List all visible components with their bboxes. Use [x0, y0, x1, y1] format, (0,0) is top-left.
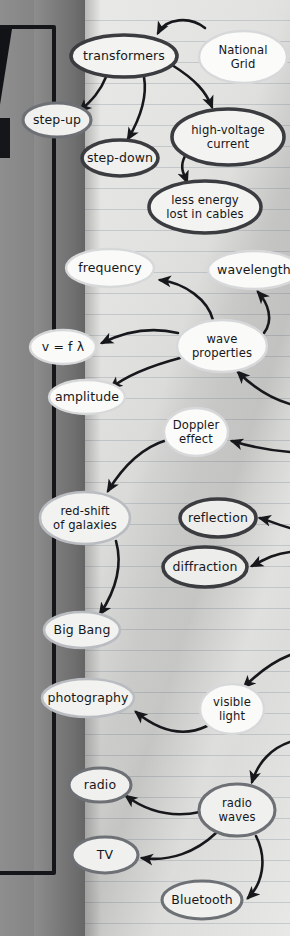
- edge-radiowaves-to-tv: [142, 833, 216, 859]
- node-high-voltage[interactable]: high-voltagecurrent: [172, 109, 284, 165]
- node-label-less-energy: less energylost in cables: [166, 193, 243, 221]
- node-label-step-down: step-down: [87, 150, 153, 165]
- node-tv[interactable]: TV: [72, 837, 138, 873]
- node-label-bluetooth: Bluetooth: [171, 892, 233, 907]
- edge-visiblelight-to-photography: [136, 712, 207, 732]
- edge-rightside-to-reflection: [260, 518, 290, 528]
- node-label-amplitude: amplitude: [55, 389, 119, 404]
- edge-radiowaves-to-bluetooth: [248, 836, 262, 898]
- node-label-transformers: transformers: [83, 48, 165, 63]
- node-bluetooth[interactable]: Bluetooth: [162, 881, 242, 919]
- edge-radiowaves-to-radio: [126, 796, 200, 814]
- node-wavelength[interactable]: wavelength: [208, 251, 290, 289]
- edge-nationalgrid-to-transformers: [158, 20, 205, 33]
- edge-waveprops-to-wavelength: [258, 292, 269, 333]
- edge-doppler-to-redshift: [108, 440, 167, 491]
- node-label-doppler-effect: Dopplereffect: [173, 418, 220, 446]
- node-big-bang[interactable]: Big Bang: [44, 612, 120, 648]
- node-label-big-bang: Big Bang: [54, 622, 111, 637]
- node-label-v-f-lambda: v = f λ: [42, 339, 85, 354]
- edge-rightside-to-visiblelight: [244, 655, 290, 687]
- node-label-radio: radio: [84, 777, 116, 792]
- node-reflection[interactable]: reflection: [180, 499, 256, 537]
- edge-rightside-to-diffraction: [252, 552, 290, 566]
- nodes-layer: transformersNationalGridstep-upstep-down…: [23, 31, 290, 919]
- edge-transformers-to-stepup: [80, 77, 106, 111]
- node-label-diffraction: diffraction: [173, 559, 238, 574]
- edge-waveprops-to-amplitude: [111, 358, 180, 388]
- node-label-step-up: step-up: [33, 112, 81, 127]
- edge-transformers-to-stepdown: [128, 77, 145, 139]
- node-doppler-effect[interactable]: Dopplereffect: [164, 408, 228, 456]
- mindmap-screenshot: transformersNationalGridstep-upstep-down…: [0, 0, 290, 936]
- node-transformers[interactable]: transformers: [71, 35, 177, 77]
- node-visible-light[interactable]: visiblelight: [200, 684, 264, 734]
- node-label-photography: photography: [47, 690, 129, 705]
- node-label-reflection: reflection: [188, 510, 248, 525]
- node-v-f-lambda[interactable]: v = f λ: [30, 330, 96, 364]
- node-amplitude[interactable]: amplitude: [49, 380, 125, 414]
- edge-rightside-to-radiowaves: [252, 742, 290, 782]
- node-photography[interactable]: photography: [42, 679, 134, 717]
- node-wave-properties[interactable]: waveproperties: [177, 320, 267, 372]
- node-radio[interactable]: radio: [69, 768, 131, 802]
- node-label-frequency: frequency: [78, 260, 142, 275]
- node-step-down[interactable]: step-down: [82, 140, 158, 176]
- node-step-up[interactable]: step-up: [23, 103, 91, 137]
- node-less-energy[interactable]: less energylost in cables: [149, 181, 261, 233]
- edge-rightside-to-waveprops: [238, 372, 290, 404]
- edge-rightside-to-doppler: [232, 441, 290, 452]
- mind-map-diagram: transformersNationalGridstep-upstep-down…: [0, 0, 290, 936]
- node-label-radio-waves: radiowaves: [218, 796, 255, 824]
- node-label-red-shift: red-shiftof galaxies: [53, 504, 117, 532]
- edge-redshift-to-bigbang: [100, 541, 119, 614]
- edge-highvoltage-to-lessenergy: [182, 156, 187, 182]
- node-label-tv: TV: [96, 847, 114, 862]
- edge-waveprops-to-frequency: [160, 280, 213, 320]
- node-radio-waves[interactable]: radiowaves: [199, 784, 275, 836]
- node-national-grid[interactable]: NationalGrid: [199, 31, 287, 83]
- node-red-shift[interactable]: red-shiftof galaxies: [40, 492, 130, 544]
- node-frequency[interactable]: frequency: [66, 249, 154, 287]
- edge-waveprops-to-vflambda: [102, 330, 178, 343]
- node-diffraction[interactable]: diffraction: [163, 547, 247, 587]
- node-label-wavelength: wavelength: [217, 262, 290, 277]
